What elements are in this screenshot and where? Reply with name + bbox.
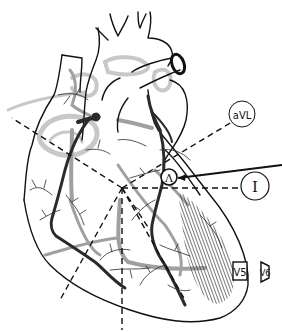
infarct-hatched-region	[179, 192, 234, 304]
lead-v6-label: V6	[260, 268, 271, 278]
lead-avl-badge: aVL	[229, 101, 255, 127]
lead-v6-badge: V6	[260, 262, 271, 282]
electrode-pointer-line	[178, 165, 282, 178]
lead-i-badge: I	[241, 172, 269, 200]
lead-avl-label: aVL	[233, 109, 252, 122]
lead-i-label: I	[252, 178, 258, 196]
heart-ecg-diagram: Ʌ aVL I V5 V6	[0, 0, 282, 332]
diagram-canvas: Ʌ aVL I V5 V6	[0, 0, 282, 332]
arrow-head-icon	[178, 174, 186, 181]
lead-v5-label: V5	[233, 266, 246, 279]
electrode-marker: Ʌ	[161, 169, 177, 185]
lead-v5-badge: V5	[233, 262, 247, 280]
electrode-marker-label: Ʌ	[164, 172, 174, 185]
